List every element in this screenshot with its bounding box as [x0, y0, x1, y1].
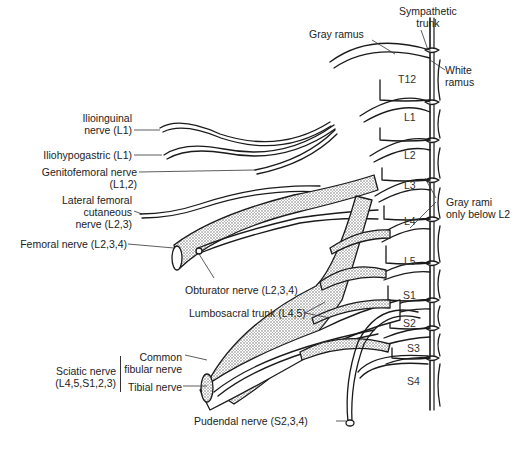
segment-s2: S2	[403, 317, 416, 329]
segment-l3: L3	[404, 179, 416, 191]
segment-s1: S1	[403, 289, 416, 301]
label-line: nerve (L2,3)	[62, 218, 132, 230]
segment-s3: S3	[407, 342, 420, 354]
label-iliohypogastric: Iliohypogastric (L1)	[43, 149, 132, 161]
label-line: Gray rami	[446, 196, 510, 208]
segment-s4: S4	[407, 375, 420, 387]
label-line: Genitofemoral nerve	[42, 166, 137, 178]
label-line: Sciatic nerve	[55, 365, 116, 377]
segment-l2: L2	[404, 149, 416, 161]
lumbosacral-plexus-diagram: Sympathetic trunk Gray ramus White ramus…	[0, 0, 530, 451]
label-line: cutaneous	[62, 206, 132, 218]
label-pudendal-nerve: Pudendal nerve (S2,3,4)	[194, 415, 308, 427]
label-genitofemoral-nerve: Genitofemoral nerve (L1,2)	[42, 166, 137, 190]
label-line: Ilioinguinal	[82, 112, 132, 124]
label-lumbosacral-trunk: Lumbosacral trunk (L4,5)	[189, 307, 306, 319]
label-white-ramus: White ramus	[445, 64, 474, 88]
label-femoral-nerve: Femoral nerve (L2,3,4)	[20, 238, 127, 250]
segment-l1: L1	[404, 111, 416, 123]
label-sympathetic-trunk: Sympathetic trunk	[399, 5, 457, 29]
segment-l5: L5	[404, 255, 416, 267]
label-line: Sympathetic	[399, 5, 457, 17]
label-line: ramus	[445, 76, 474, 88]
label-obturator-nerve: Obturator nerve (L2,3,4)	[185, 284, 298, 296]
label-line: (L4,5,S1,2,3)	[55, 377, 116, 389]
label-common-fibular-nerve: Common fibular nerve	[124, 351, 182, 375]
segment-t12: T12	[398, 73, 416, 85]
label-line: fibular nerve	[124, 363, 182, 375]
label-line: (L1,2)	[42, 178, 137, 190]
label-line: Common	[124, 351, 182, 363]
label-line: White	[445, 64, 474, 76]
label-ilioinguinal-nerve: Ilioinguinal nerve (L1)	[82, 112, 132, 136]
label-tibial-nerve: Tibial nerve	[128, 381, 182, 393]
label-gray-ramus: Gray ramus	[309, 28, 364, 40]
label-line: Lateral femoral	[62, 194, 132, 206]
label-gray-rami-below-l2: Gray rami only below L2	[446, 196, 510, 220]
label-sciatic-nerve: Sciatic nerve (L4,5,S1,2,3)	[55, 365, 116, 389]
label-lateral-femoral-cutaneous: Lateral femoral cutaneous nerve (L2,3)	[62, 194, 132, 230]
label-line: nerve (L1)	[82, 124, 132, 136]
label-line: only below L2	[446, 208, 510, 220]
segment-l4: L4	[404, 215, 416, 227]
label-line: trunk	[399, 17, 457, 29]
